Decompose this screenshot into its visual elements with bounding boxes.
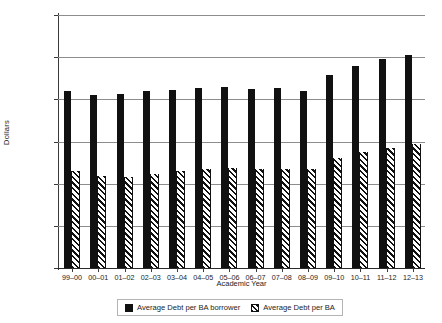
x-tick-mark — [334, 268, 335, 272]
bar-average-debt-per-ba[interactable] — [255, 169, 264, 269]
bar-average-debt-per-ba-borrower[interactable] — [169, 90, 176, 268]
gridline — [58, 226, 425, 227]
bar-group[interactable] — [352, 15, 368, 268]
x-axis-title: Academic Year — [58, 279, 425, 288]
x-tick-mark — [125, 268, 126, 272]
bar-group[interactable] — [143, 15, 159, 268]
bar-average-debt-per-ba-borrower[interactable] — [221, 87, 228, 268]
bar-average-debt-per-ba-borrower[interactable] — [90, 95, 97, 268]
hatched-square-icon — [251, 304, 259, 312]
bar-average-debt-per-ba-borrower[interactable] — [379, 59, 386, 268]
x-tick-mark — [282, 268, 283, 272]
bar-average-debt-per-ba-borrower[interactable] — [300, 91, 307, 268]
bar-average-debt-per-ba[interactable] — [97, 176, 106, 268]
bar-average-debt-per-ba[interactable] — [333, 158, 342, 268]
bar-group[interactable] — [195, 15, 211, 268]
x-tick-mark — [177, 268, 178, 272]
plot-area — [58, 15, 425, 268]
bar-average-debt-per-ba-borrower[interactable] — [326, 75, 333, 268]
bar-group[interactable] — [300, 15, 316, 268]
x-tick-mark — [387, 268, 388, 272]
x-tick-mark — [413, 268, 414, 272]
gridline — [58, 57, 425, 58]
legend-label: Average Debt per BA borrower — [137, 303, 240, 312]
bar-average-debt-per-ba-borrower[interactable] — [143, 91, 150, 268]
bar-average-debt-per-ba[interactable] — [228, 168, 237, 268]
gridline — [58, 184, 425, 185]
bar-group[interactable] — [326, 15, 342, 268]
bar-average-debt-per-ba-borrower[interactable] — [405, 55, 412, 268]
bar-group[interactable] — [117, 15, 133, 268]
bar-average-debt-per-ba-borrower[interactable] — [248, 89, 255, 268]
x-tick-mark — [151, 268, 152, 272]
solid-square-icon — [125, 304, 133, 312]
bar-average-debt-per-ba-borrower[interactable] — [352, 66, 359, 268]
x-tick-mark — [360, 268, 361, 272]
gridline — [58, 268, 425, 269]
legend-label: Average Debt per BA — [263, 303, 335, 312]
bar-group[interactable] — [248, 15, 264, 268]
bar-group[interactable] — [405, 15, 421, 268]
bar-average-debt-per-ba[interactable] — [359, 152, 368, 268]
bar-group[interactable] — [90, 15, 106, 268]
legend-entry[interactable]: Average Debt per BA — [251, 303, 335, 312]
bar-average-debt-per-ba-borrower[interactable] — [195, 88, 202, 268]
bar-chart-figure: Dollars $30,000$25,000$20,000$15,000$10,… — [0, 0, 442, 323]
gridline — [58, 99, 425, 100]
bar-average-debt-per-ba-borrower[interactable] — [64, 91, 71, 268]
bar-group[interactable] — [221, 15, 237, 268]
x-tick-mark — [308, 268, 309, 272]
bar-group[interactable] — [379, 15, 395, 268]
bar-average-debt-per-ba[interactable] — [150, 174, 159, 268]
x-tick-mark — [256, 268, 257, 272]
gridline — [58, 142, 425, 143]
bar-group[interactable] — [169, 15, 185, 268]
bar-average-debt-per-ba[interactable] — [307, 169, 316, 269]
x-tick-mark — [203, 268, 204, 272]
gridline — [58, 15, 425, 16]
bar-average-debt-per-ba[interactable] — [202, 169, 211, 268]
x-tick-mark — [229, 268, 230, 272]
bar-average-debt-per-ba[interactable] — [124, 177, 133, 268]
legend-entry[interactable]: Average Debt per BA borrower — [125, 303, 240, 312]
bar-average-debt-per-ba-borrower[interactable] — [274, 88, 281, 268]
bar-average-debt-per-ba[interactable] — [412, 144, 421, 268]
bar-average-debt-per-ba-borrower[interactable] — [117, 94, 124, 268]
bar-average-debt-per-ba[interactable] — [386, 148, 395, 268]
x-tick-mark — [98, 268, 99, 272]
x-tick-mark — [72, 268, 73, 272]
y-axis-title: Dollars — [2, 103, 11, 163]
bar-group[interactable] — [274, 15, 290, 268]
chart-legend: Average Debt per BA borrowerAverage Debt… — [117, 299, 343, 316]
bar-average-debt-per-ba[interactable] — [176, 171, 185, 268]
bar-average-debt-per-ba[interactable] — [71, 171, 80, 268]
bar-group[interactable] — [64, 15, 80, 268]
bar-average-debt-per-ba[interactable] — [281, 169, 290, 269]
